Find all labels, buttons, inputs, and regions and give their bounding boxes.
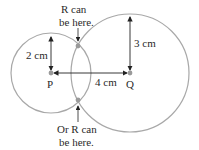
label-q: Q <box>126 78 134 90</box>
annotation-bottom-line1: Or R can <box>57 123 97 135</box>
label-distance-pq: 4 cm <box>95 76 117 88</box>
point-r-bottom <box>76 98 81 103</box>
annotation-top-line2: be here. <box>59 16 94 28</box>
annotation-top-line1: R can <box>61 3 87 15</box>
label-p: P <box>47 78 53 90</box>
point-p <box>49 71 54 76</box>
label-radius-q: 3 cm <box>134 37 156 49</box>
annotation-bottom-line2: be here. <box>59 136 94 148</box>
point-q <box>128 71 133 76</box>
circles-diagram: P Q 2 cm 3 cm 4 cm R can be here. Or R c… <box>0 0 199 150</box>
point-r-top <box>76 44 81 49</box>
label-radius-p: 2 cm <box>26 49 48 61</box>
